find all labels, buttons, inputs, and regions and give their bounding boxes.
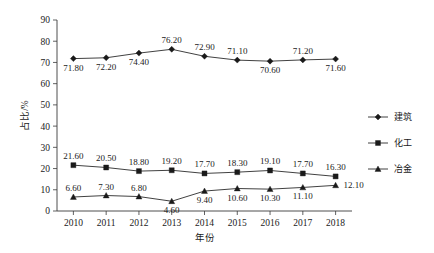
value-label-冶金-2012: 6.80 [131, 183, 147, 193]
legend-label-建筑: 建筑 [394, 111, 412, 122]
value-label-建筑-2016: 70.60 [260, 65, 281, 75]
y-tick-label: 50 [41, 100, 51, 110]
value-label-化工-2015: 18.30 [227, 158, 248, 168]
value-label-建筑-2010: 71.80 [63, 63, 84, 73]
data-point-建筑-2013 [169, 46, 175, 52]
value-label-冶金-2013: 4.60 [164, 205, 180, 215]
value-label-建筑-2015: 71.10 [227, 46, 248, 56]
legend-label-冶金: 冶金 [394, 163, 412, 174]
data-point-建筑-2010 [70, 56, 76, 62]
value-label-化工-2011: 20.50 [96, 153, 117, 163]
legend-marker-square-icon [376, 141, 381, 146]
value-label-化工-2013: 19.20 [162, 156, 183, 166]
value-label-冶金-2016: 10.30 [260, 193, 281, 203]
x-tick-label: 2017 [293, 218, 312, 228]
legend-marker-diamond-icon [375, 114, 381, 120]
y-tick-label: 80 [41, 37, 51, 47]
data-point-化工-2015 [235, 170, 240, 175]
data-point-建筑-2016 [267, 58, 273, 64]
data-point-化工-2018 [333, 174, 338, 179]
data-point-建筑-2018 [333, 56, 339, 62]
x-axis-title: 年份 [195, 232, 215, 243]
x-tick-label: 2013 [162, 218, 181, 228]
value-label-冶金-2011: 7.30 [98, 182, 114, 192]
value-label-化工-2014: 17.70 [194, 159, 215, 169]
y-tick-label: 90 [41, 15, 51, 25]
value-label-冶金-2014: 9.40 [197, 195, 213, 205]
value-label-冶金-2018: 12.10 [344, 180, 365, 190]
y-tick-label: 10 [41, 185, 51, 195]
x-tick-label: 2016 [261, 218, 280, 228]
value-label-建筑-2017: 71.20 [293, 46, 314, 56]
y-tick-label: 70 [41, 58, 51, 68]
x-tick-label: 2014 [195, 218, 214, 228]
data-point-建筑-2015 [234, 57, 240, 63]
data-point-化工-2014 [202, 171, 207, 176]
x-tick-label: 2011 [97, 218, 116, 228]
data-point-建筑-2017 [300, 57, 306, 63]
x-tick-label: 2010 [64, 218, 83, 228]
y-tick-label: 30 [41, 143, 51, 153]
x-tick-label: 2015 [228, 218, 247, 228]
value-label-化工-2012: 18.80 [129, 157, 150, 167]
value-label-冶金-2015: 10.60 [227, 193, 248, 203]
value-label-化工-2016: 19.10 [260, 156, 281, 166]
data-point-建筑-2011 [103, 55, 109, 61]
data-point-化工-2012 [136, 169, 141, 174]
value-label-建筑-2012: 74.40 [129, 57, 150, 67]
x-tick-label: 2012 [129, 218, 148, 228]
value-label-冶金-2017: 11.10 [293, 191, 313, 201]
value-label-冶金-2010: 6.60 [66, 183, 82, 193]
line-chart: 0102030405060708090201020112012201320142… [0, 0, 434, 253]
data-point-建筑-2012 [136, 50, 142, 56]
y-tick-label: 0 [45, 206, 50, 216]
value-label-建筑-2018: 71.60 [325, 63, 346, 73]
value-label-建筑-2014: 72.90 [194, 42, 215, 52]
value-label-化工-2017: 17.70 [293, 159, 314, 169]
data-point-化工-2016 [268, 168, 273, 173]
value-label-建筑-2013: 76.20 [162, 35, 183, 45]
chart-canvas: 0102030405060708090201020112012201320142… [0, 0, 434, 253]
data-point-化工-2013 [169, 168, 174, 173]
x-tick-label: 2018 [326, 218, 345, 228]
data-point-建筑-2014 [202, 53, 208, 59]
value-label-化工-2010: 21.60 [63, 151, 84, 161]
value-label-建筑-2011: 72.20 [96, 62, 117, 72]
y-axis-title: 占比/% [19, 100, 30, 131]
y-tick-label: 40 [41, 122, 51, 132]
data-point-化工-2010 [71, 163, 76, 168]
y-tick-label: 20 [41, 164, 51, 174]
y-tick-label: 60 [41, 79, 51, 89]
data-point-化工-2017 [300, 171, 305, 176]
value-label-化工-2018: 16.30 [325, 162, 346, 172]
data-point-化工-2011 [104, 165, 109, 170]
legend-label-化工: 化工 [394, 137, 412, 148]
